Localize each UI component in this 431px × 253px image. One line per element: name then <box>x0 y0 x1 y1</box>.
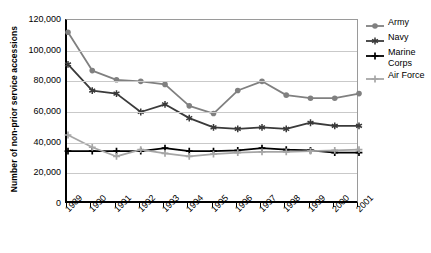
data-point-circle <box>186 103 192 109</box>
data-point-circle <box>308 95 314 101</box>
y-axis-tick-label: 40,000 <box>5 137 61 147</box>
data-point-circle <box>235 88 241 94</box>
data-point-plus <box>259 148 266 155</box>
data-point-circle <box>162 82 168 88</box>
data-point-circle <box>65 29 71 35</box>
data-point-plus <box>89 144 96 151</box>
data-point-circle <box>283 92 289 98</box>
data-point-plus <box>372 53 379 60</box>
plot-area <box>65 19 358 203</box>
legend-item-label: Army <box>388 17 409 28</box>
legend-item-army[interactable]: Army <box>365 17 431 30</box>
y-axis-tick-label: 100,000 <box>5 45 61 55</box>
legend-item-marine-corps[interactable]: Marine Corps <box>365 47 431 68</box>
legend-item-label: Marine Corps <box>388 47 431 68</box>
legend-key-plus-icon <box>365 71 385 83</box>
series-air-force <box>65 132 363 160</box>
legend-key-circle-icon <box>365 18 385 30</box>
data-point-circle <box>356 91 362 97</box>
y-axis-tick-label: 20,000 <box>5 167 61 177</box>
x-axis-tick-labels: 1989199019911992199319941995199619971998… <box>65 203 358 253</box>
gridline <box>67 112 357 113</box>
series-line <box>68 64 359 128</box>
y-axis-tick-label: 120,000 <box>5 14 61 24</box>
data-point-plus <box>186 153 193 160</box>
gridline <box>67 51 357 52</box>
line-chart: Number of non-prior service accessions 0… <box>0 0 431 253</box>
y-axis-tick-label: 80,000 <box>5 75 61 85</box>
series-line <box>68 32 359 113</box>
data-point-circle <box>89 68 95 74</box>
data-point-plus <box>113 153 120 160</box>
gridline <box>67 143 357 144</box>
data-point-plus <box>65 132 72 139</box>
y-axis-tick-label: 0 <box>5 198 61 208</box>
gridline <box>67 173 357 174</box>
legend-item-air-force[interactable]: Air Force <box>365 70 431 83</box>
y-axis-tick-label: 60,000 <box>5 106 61 116</box>
legend-item-navy[interactable]: Navy <box>365 32 431 45</box>
data-point-plus <box>65 148 72 155</box>
legend-item-label: Air Force <box>388 70 425 81</box>
y-axis-tick-labels: 020,00040,00060,00080,000100,000120,000 <box>3 19 61 203</box>
legend-key-plus-icon <box>365 48 385 60</box>
data-point-plus <box>372 76 379 83</box>
data-point-plus <box>307 148 314 155</box>
legend-key-asterisk-icon <box>365 33 385 45</box>
data-point-circle <box>372 23 378 29</box>
chart-legend: ArmyNavyMarine CorpsAir Force <box>365 17 431 85</box>
series-army <box>65 29 362 116</box>
data-point-plus <box>162 150 169 157</box>
data-point-circle <box>332 95 338 101</box>
legend-item-label: Navy <box>388 32 409 43</box>
gridline <box>67 81 357 82</box>
series-navy <box>65 61 362 132</box>
